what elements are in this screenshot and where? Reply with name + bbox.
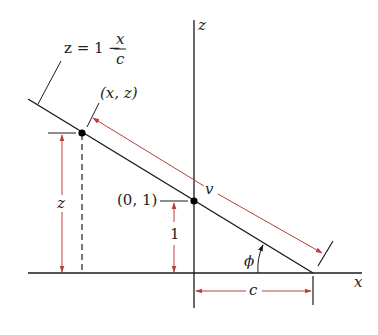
equation-numerator: x — [116, 30, 125, 48]
v-dimension-arrow-end — [218, 194, 322, 253]
line-z-equals-1-minus-x-over-c — [28, 99, 313, 273]
point-x-z-label: (x, z) — [100, 84, 138, 102]
x-axis-label: x — [354, 273, 363, 291]
angle-phi-arc — [258, 245, 263, 273]
point-0-1-label: (0, 1) — [117, 191, 157, 209]
equation-lhs: z = 1 − — [64, 39, 121, 57]
diagram-svg: z x z = 1 − x c (x, z) (0, 1) z 1 v c ϕ — [0, 0, 378, 335]
v-dimension-label: v — [205, 180, 214, 198]
z-dimension-label: z — [56, 194, 65, 212]
v-dimension-end-tick — [318, 241, 333, 266]
equation-leader — [38, 61, 61, 104]
v-dimension-arrow-start — [93, 118, 204, 186]
z-axis-label: z — [197, 16, 206, 34]
point-0-1 — [190, 197, 197, 204]
angle-phi-label: ϕ — [244, 252, 254, 270]
one-dimension-label: 1 — [170, 225, 180, 243]
point-x-z — [78, 129, 85, 136]
diagram-canvas: z x z = 1 − x c (x, z) (0, 1) z 1 v c ϕ — [0, 0, 378, 335]
point-label-leader — [87, 103, 99, 127]
equation-denominator: c — [116, 50, 125, 68]
c-dimension-label: c — [249, 281, 258, 299]
